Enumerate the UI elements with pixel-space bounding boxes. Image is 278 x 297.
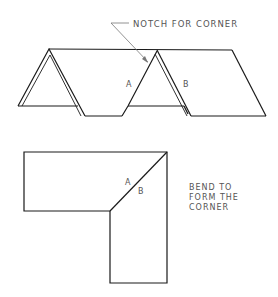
corner-label-b: B <box>138 187 145 196</box>
bend-note-line-3: CORNER <box>189 203 229 212</box>
l-shape-outline <box>24 152 167 283</box>
formed-corner-view: A B BEND TO FORM THE CORNER <box>24 152 239 283</box>
right-end-edge <box>232 50 266 116</box>
corner-label-a: A <box>125 178 131 187</box>
ridge-line <box>49 49 232 50</box>
left-triangle-inner <box>22 55 81 116</box>
corner-bending-diagram: NOTCH FOR CORNER A B A B BEND TO FORM TH… <box>0 0 278 297</box>
bend-diagonal <box>110 152 167 211</box>
notch-callout-label: NOTCH FOR CORNER <box>133 19 238 29</box>
face-label-a: A <box>126 80 132 89</box>
folded-strip-view: NOTCH FOR CORNER A B <box>18 19 266 116</box>
bend-note-line-1: BEND TO <box>189 183 232 192</box>
bend-note-line-2: FORM THE <box>189 193 239 202</box>
face-label-b: B <box>183 80 190 89</box>
